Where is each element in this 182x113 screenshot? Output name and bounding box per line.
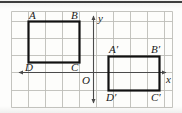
vertex-label-C-prime: C′ (151, 92, 161, 103)
grid-and-shapes-svg (11, 11, 173, 108)
figure-canvas: A B C D A′ B′ C′ D′ y x O (0, 0, 182, 113)
coordinate-plane: A B C D A′ B′ C′ D′ y x O (11, 11, 173, 108)
vertex-label-A-prime: A′ (109, 44, 118, 55)
rectangle-A-prime-B-prime-C-prime-D-prime (109, 57, 160, 91)
vertex-label-A: A (29, 10, 36, 21)
vertex-label-D-prime: D′ (106, 92, 116, 103)
vertex-label-C: C (71, 62, 78, 73)
origin-label: O (82, 75, 90, 86)
grid-lines (12, 12, 173, 108)
x-axis-label: x (166, 74, 171, 85)
y-axis-label: y (98, 13, 103, 24)
vertex-label-B: B (71, 10, 78, 21)
page-top-rule (0, 1, 182, 3)
vertex-label-D: D (25, 62, 33, 73)
vertex-label-B-prime: B′ (151, 44, 160, 55)
rectangle-ABCD (29, 22, 80, 63)
